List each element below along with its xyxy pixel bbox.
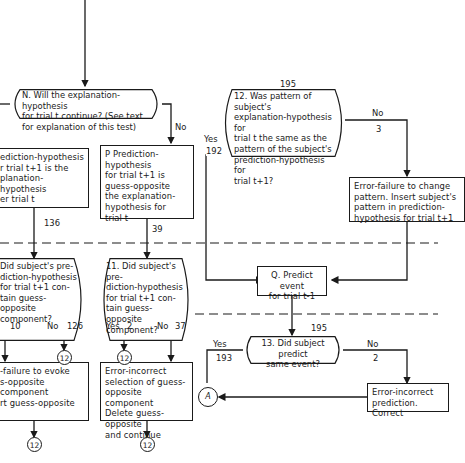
- connector-12: 12: [117, 350, 132, 365]
- decision-13: 13. Did subject predict same event?: [243, 336, 343, 364]
- edge-label-no: No: [157, 321, 168, 331]
- edge-count: 2: [373, 353, 378, 363]
- connector-A: A: [198, 387, 218, 407]
- edge-count: 3: [376, 124, 381, 134]
- edge-count: 193: [216, 353, 232, 363]
- process-P: P Prediction-hypothesis for trial t+1 is…: [100, 145, 194, 219]
- edge-count: 39: [152, 224, 163, 234]
- edge-label-yes: Yes: [204, 134, 218, 144]
- process-prediction-equals-explanation: ediction-hypothesis r trial t+1 is the p…: [0, 148, 89, 208]
- error-failure-to-change: Error-failure to change pattern. Insert …: [349, 177, 465, 222]
- error-incorrect-prediction: Error-incorrect prediction. Correct: [367, 383, 449, 412]
- edge-count: 37: [175, 321, 186, 331]
- edge-count: 126: [67, 321, 83, 331]
- decision-12: 12. Was pattern of subject's explanation…: [222, 89, 345, 157]
- decision-12-text: 12. Was pattern of subject's explanation…: [234, 91, 335, 186]
- decision-13-text: 13. Did subject predict same event?: [251, 338, 335, 370]
- edge-label-no: No: [175, 122, 186, 132]
- error-incorrect-selection: Error-incorrect selection of guess- oppo…: [100, 362, 193, 421]
- error-failure-to-evoke: -failure to evoke s-opposite component r…: [0, 362, 89, 421]
- edge-count: 10: [10, 321, 21, 331]
- connector-12: 12: [140, 437, 155, 452]
- edge-count: 136: [44, 218, 60, 228]
- edge-count: 195: [311, 323, 327, 333]
- edge-label-no: No: [372, 108, 383, 118]
- decision-left-text: Did subject's pre- diction-hypothesis fo…: [0, 261, 78, 325]
- process-Q: Q. Predict event for trial t-1: [257, 266, 327, 296]
- decision-N: N. Will the explanation-hypothesis for t…: [10, 89, 162, 119]
- edge-label-no: No: [367, 339, 378, 349]
- edge-count: 192: [206, 146, 222, 156]
- connector-12: 12: [27, 437, 42, 452]
- edge-count: 2: [127, 321, 132, 331]
- edge-label-yes: Yes: [213, 339, 227, 349]
- connector-12: 12: [57, 350, 72, 365]
- edge-label-no: No: [47, 321, 58, 331]
- decision-N-text: N. Will the explanation-hypothesis for t…: [22, 90, 150, 132]
- edge-count: 195: [280, 79, 296, 89]
- edge-label-yes: Yes: [106, 321, 120, 331]
